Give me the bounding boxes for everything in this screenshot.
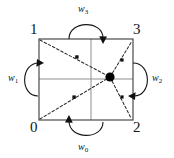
edge-label-w0-sub: 0 bbox=[85, 146, 89, 154]
dashed-link-from-corner-1 bbox=[40, 40, 110, 77]
corner-label-0: 0 bbox=[30, 120, 38, 135]
edge-label-w1: w1 bbox=[8, 73, 18, 85]
edge-label-w3-base: w bbox=[78, 3, 85, 14]
interior-grid bbox=[39, 39, 133, 120]
arc-arrow-w3-head bbox=[99, 36, 107, 44]
arc-arrow-w1 bbox=[25, 63, 39, 96]
edge-label-w2: w2 bbox=[152, 73, 162, 85]
arc-arrow-w2-path bbox=[133, 63, 147, 96]
edge-label-w1-base: w bbox=[8, 72, 15, 83]
arc-arrow-w1-path bbox=[25, 63, 39, 96]
corner-label-3: 3 bbox=[133, 22, 141, 37]
arc-arrow-w2 bbox=[133, 63, 147, 96]
diagram-svg bbox=[0, 0, 174, 158]
edge-label-w3: w3 bbox=[78, 4, 88, 16]
dot-upper-diagonal bbox=[75, 55, 78, 58]
edge-label-w0: w0 bbox=[78, 142, 88, 154]
dot-lower-diagonal bbox=[72, 95, 75, 98]
corner-label-2: 2 bbox=[133, 120, 141, 135]
edge-label-w2-base: w bbox=[152, 72, 159, 83]
corner-label-1: 1 bbox=[30, 22, 38, 37]
arc-arrow-w0-path bbox=[69, 121, 103, 135]
arc-arrow-w1-head bbox=[36, 59, 44, 67]
dot-lower-right bbox=[120, 95, 123, 98]
arc-arrow-w3-path bbox=[69, 25, 103, 39]
edge-label-w3-sub: 3 bbox=[85, 8, 89, 16]
arc-arrow-w0 bbox=[69, 121, 103, 135]
center-node bbox=[105, 72, 114, 81]
arc-arrow-w0-head bbox=[65, 115, 73, 123]
diagram-canvas: 1 3 0 2 w3 w2 w0 w1 bbox=[0, 0, 174, 158]
dot-upper-right bbox=[120, 58, 123, 61]
arc-arrow-w3 bbox=[69, 25, 103, 39]
edge-label-w0-base: w bbox=[78, 141, 85, 152]
edge-label-w2-sub: 2 bbox=[159, 77, 163, 85]
small-nodes bbox=[72, 55, 123, 99]
edge-label-w1-sub: 1 bbox=[15, 77, 19, 85]
arc-arrow-w2-head bbox=[128, 92, 136, 100]
